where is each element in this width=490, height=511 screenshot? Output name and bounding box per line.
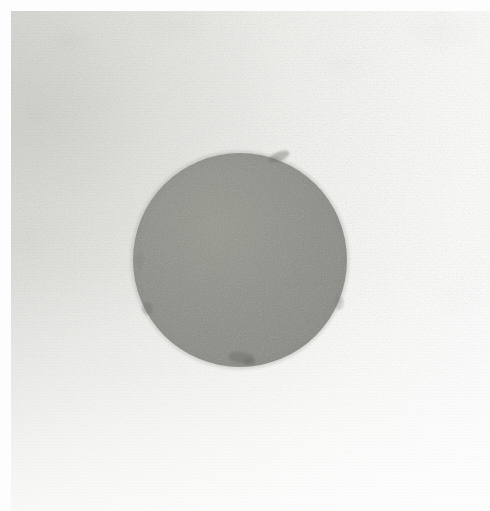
- scan-margin-left: [0, 0, 11, 511]
- disc-group: [0, 0, 490, 511]
- scanned-image-figure: [0, 0, 490, 511]
- edge-speck-right-mid-artifact: [334, 296, 344, 310]
- edge-notch-top-right-artifact: [267, 148, 291, 165]
- edge-speck-left-lower-artifact: [142, 302, 153, 315]
- edge-speck-left-mid-artifact: [136, 252, 144, 270]
- scan-margin-top: [0, 0, 490, 11]
- disc-edge-artifacts: [0, 0, 490, 511]
- edge-speck-bottom-b-artifact: [243, 358, 255, 365]
